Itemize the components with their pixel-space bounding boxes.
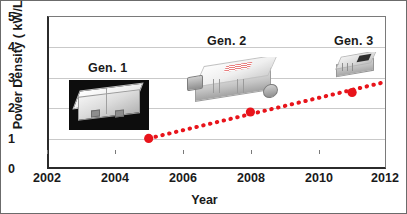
y-tick-label-3: 3: [0, 72, 15, 85]
x-tick-label-2002: 2002: [25, 172, 69, 185]
x-tickmark-2012: [385, 150, 386, 154]
gen2-connector-right: [263, 83, 278, 99]
gen2-vent-3: [237, 79, 238, 93]
x-tickmark-2008: [251, 150, 252, 154]
gridline-1: [49, 139, 385, 140]
gen3-fin-3: [352, 63, 353, 71]
x-tick-label-2004: 2004: [93, 172, 137, 185]
gen3-fin-1: [342, 63, 343, 71]
x-tickmark-2004: [115, 150, 116, 154]
x-tick-label-2012: 2012: [363, 172, 407, 185]
gen1-port-right: [115, 109, 124, 117]
y-tick-label-2: 2: [0, 102, 15, 115]
annotation-gen1: Gen. 1: [88, 61, 127, 75]
x-tickmark-2010: [319, 150, 320, 154]
y-tick-label-4: 4: [0, 41, 15, 54]
gen3-fin-2: [347, 63, 348, 71]
y-tick-label-5: 5: [0, 11, 15, 24]
gen1-device-photo: [69, 80, 149, 130]
gen2-vent-2: [219, 79, 220, 93]
x-tickmark-2002: [47, 150, 48, 154]
gen2-vent-1: [213, 79, 214, 93]
x-tick-label-2010: 2010: [297, 172, 341, 185]
gen2-device-photo: [185, 57, 283, 107]
y-tick-label-0: 0: [0, 163, 15, 176]
gen2-connector-left: [187, 75, 203, 92]
gen3-device-photo: [333, 52, 379, 80]
y-tick-label-1: 1: [0, 133, 15, 146]
plot-area: Gen. 1 Gen. 2 Gen. 3: [47, 16, 386, 169]
annotation-gen2: Gen. 2: [207, 34, 246, 48]
annotation-gen3: Gen. 3: [334, 34, 373, 48]
x-tickmark-2006: [183, 150, 184, 154]
gen2-vent-4: [243, 79, 244, 93]
gen1-seam: [106, 88, 107, 114]
x-tick-label-2008: 2008: [229, 172, 273, 185]
x-axis-title: Year: [1, 193, 407, 207]
x-tick-label-2006: 2006: [161, 172, 205, 185]
power-density-chart-figure: Power Density ( kW/L ) 5 4 3 2 1 0: [0, 0, 407, 214]
gen1-port-left: [91, 109, 100, 117]
